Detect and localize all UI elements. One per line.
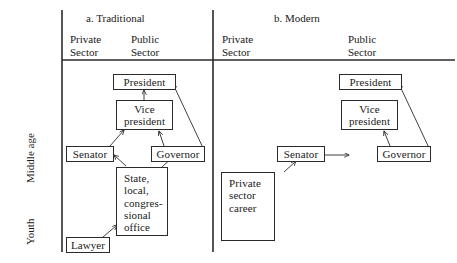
node-traditional-president[interactable]: President [113,74,176,90]
node-modern-senator[interactable]: Senator [277,146,325,162]
node-modern-president[interactable]: President [339,74,402,90]
arrow-governor-to-president [173,84,204,150]
node-traditional-governor[interactable]: Governor [151,146,205,162]
axis-label-middle-age: Middle age [24,133,36,183]
arrow-career-to-senator-modern [284,161,296,172]
node-traditional-state-local-office[interactable]: State, local, congres- sional office [116,167,168,236]
node-modern-private-sector-career[interactable]: Private sector career [221,172,275,241]
arrow-governor-to-president-modern [399,84,430,150]
axis-label-youth: Youth [24,219,36,245]
panel-title-modern: b. Modern [274,12,320,24]
node-traditional-vice-president[interactable]: Vice president [116,100,173,130]
node-traditional-senator[interactable]: Senator [66,146,114,162]
column-header-modern-public: Public Sector [348,33,376,59]
arrow-office-to-senator [114,155,126,166]
node-modern-governor[interactable]: Governor [377,146,431,162]
column-header-traditional-private: Private Sector [70,33,101,59]
column-header-traditional-public: Public Sector [131,33,159,59]
arrow-lawyer-to-office [103,225,117,237]
arrow-governor-to-vp [159,131,164,146]
arrow-governor-to-vp-modern [384,131,390,146]
node-traditional-lawyer[interactable]: Lawyer [66,237,110,253]
arrow-senator-to-vp [110,130,124,146]
panel-title-traditional: a. Traditional [86,12,145,24]
career-path-diagram: a. Traditional b. Modern Private Sector … [0,0,457,263]
column-header-modern-private: Private Sector [222,33,253,59]
node-modern-vice-president[interactable]: Vice president [341,100,398,130]
